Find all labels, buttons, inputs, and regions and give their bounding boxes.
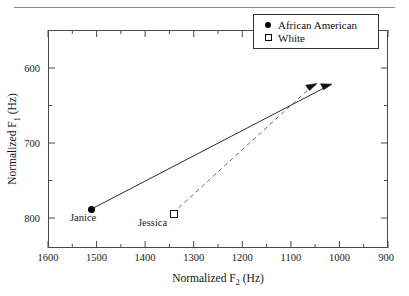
xtick-label-1000: 1000 [329,252,350,263]
xtick-label-900: 900 [378,252,394,263]
arrowhead-white [306,84,317,91]
x-axis-ticks [48,241,388,248]
xtick-label-1600: 1600 [38,252,59,263]
x-axis-title: Normalized F2(Hz) [172,272,264,287]
legend-item-white: White [260,31,372,44]
y-axis-title: Normalized F1(Hz) [6,44,21,234]
y-axis-ticks-right [381,68,388,218]
vowel-plot-figure: 600 700 800 1600 1500 1400 1300 1200 110… [0,0,409,296]
xtick-label-1400: 1400 [135,252,156,263]
figure-page: 600 700 800 1600 1500 1400 1300 1200 110… [0,0,409,296]
y-axis-title-text: Normalized F1(Hz) [6,93,18,185]
xtick-label-1100: 1100 [281,252,302,263]
xtick-label-1200: 1200 [232,252,253,263]
trajectory-african-american [92,84,333,209]
legend-label-white: White [276,32,305,44]
chart-legend: African American White [253,14,379,49]
filled-circle-icon [260,22,276,28]
data-point-jessica [170,210,178,218]
point-label-jessica: Jessica [138,217,167,228]
open-square-icon [260,34,276,41]
point-label-janice: Janice [70,212,96,223]
xtick-label-1500: 1500 [86,252,107,263]
x-axis-title-text: Normalized F2(Hz) [172,272,264,284]
xtick-label-1300: 1300 [183,252,204,263]
y-axis-ticks [48,68,55,218]
legend-item-african-american: African American [260,18,372,31]
legend-label-african-american: African American [276,19,357,31]
